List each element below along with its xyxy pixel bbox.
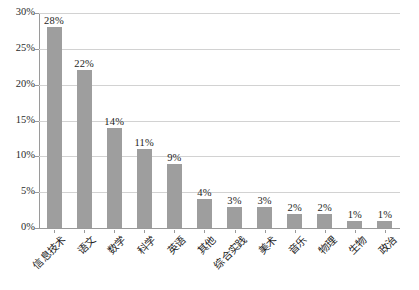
x-axis-category-label: 其他 — [194, 232, 219, 257]
bar-value-label: 14% — [104, 116, 124, 127]
x-axis-category-label: 英语 — [164, 232, 189, 257]
bar-group[interactable]: 2% — [317, 13, 332, 228]
bar[interactable] — [107, 128, 122, 228]
x-axis-tick-mark — [385, 230, 386, 233]
bar-value-label: 1% — [348, 209, 362, 220]
bar-value-label: 22% — [74, 58, 94, 69]
bar-value-label: 3% — [227, 195, 241, 206]
x-axis-line — [39, 228, 400, 229]
x-axis-tick-mark — [174, 230, 175, 233]
x-axis-tick-mark — [265, 230, 266, 233]
gridline — [39, 156, 400, 157]
y-axis-tick-label: 25% — [0, 42, 35, 53]
x-axis-tick-mark — [235, 230, 236, 233]
bar[interactable] — [287, 214, 302, 228]
bar-value-label: 3% — [257, 195, 271, 206]
x-axis-category-label: 信息技术 — [29, 232, 69, 272]
bar-group[interactable]: 28% — [47, 13, 62, 228]
bar-group[interactable]: 9% — [167, 13, 182, 228]
bar-group[interactable]: 3% — [227, 13, 242, 228]
bar-value-label: 11% — [135, 137, 154, 148]
x-axis-category-label: 音乐 — [284, 232, 309, 257]
y-axis-tick-label: 15% — [0, 114, 35, 125]
bar-group[interactable]: 4% — [197, 13, 212, 228]
bar[interactable] — [137, 149, 152, 228]
x-axis-category-label: 数学 — [104, 232, 129, 257]
gridline — [39, 192, 400, 193]
gridline — [39, 121, 400, 122]
x-axis-tick-mark — [355, 230, 356, 233]
bar[interactable] — [47, 27, 62, 228]
x-axis-category-label: 政治 — [374, 232, 399, 257]
bar[interactable] — [197, 199, 212, 228]
gridline — [39, 85, 400, 86]
bar[interactable] — [77, 70, 92, 228]
y-axis-tick-label: 10% — [0, 149, 35, 160]
bar-group[interactable]: 11% — [137, 13, 152, 228]
x-axis-tick-mark — [204, 230, 205, 233]
bar-group[interactable]: 1% — [377, 13, 392, 228]
y-axis-tick-label: 30% — [0, 6, 35, 17]
bar-value-label: 2% — [318, 202, 332, 213]
plot-area: 28%22%14%11%9%4%3%3%2%2%1%1% — [39, 13, 400, 228]
x-axis-category-label: 科学 — [134, 232, 159, 257]
y-axis-tick-label: 20% — [0, 78, 35, 89]
bar-group[interactable]: 14% — [107, 13, 122, 228]
x-axis-tick-mark — [54, 230, 55, 233]
y-axis-tick-label: 5% — [0, 185, 35, 196]
bar-value-label: 9% — [167, 152, 181, 163]
x-axis-tick-mark — [295, 230, 296, 233]
x-axis-category-label: 美术 — [254, 232, 279, 257]
x-axis-tick-mark — [144, 230, 145, 233]
x-axis-category-labels: 信息技术语文数学科学英语其他综合实践美术音乐物理生物政治 — [39, 230, 400, 290]
bar[interactable] — [167, 164, 182, 229]
bar[interactable] — [377, 221, 392, 228]
bar-value-label: 1% — [378, 209, 392, 220]
x-axis-category-label: 语文 — [74, 232, 99, 257]
gridline — [39, 49, 400, 50]
bar[interactable] — [347, 221, 362, 228]
bar[interactable] — [317, 214, 332, 228]
y-axis-tick-label: 0% — [0, 221, 35, 232]
x-axis-tick-mark — [84, 230, 85, 233]
bar-group[interactable]: 2% — [287, 13, 302, 228]
gridline — [39, 13, 400, 14]
bar-value-label: 4% — [197, 187, 211, 198]
x-axis-tick-mark — [325, 230, 326, 233]
bar-group[interactable]: 22% — [77, 13, 92, 228]
bar-value-label: 28% — [44, 15, 64, 26]
bar-value-label: 2% — [288, 202, 302, 213]
bar-chart: 0%5%10%15%20%25%30% 28%22%14%11%9%4%3%3%… — [0, 0, 419, 290]
bar-group[interactable]: 1% — [347, 13, 362, 228]
bar[interactable] — [257, 207, 272, 229]
x-axis-tick-mark — [114, 230, 115, 233]
x-axis-category-label: 物理 — [314, 232, 339, 257]
bar-group[interactable]: 3% — [257, 13, 272, 228]
x-axis-category-label: 生物 — [344, 232, 369, 257]
bar[interactable] — [227, 207, 242, 229]
